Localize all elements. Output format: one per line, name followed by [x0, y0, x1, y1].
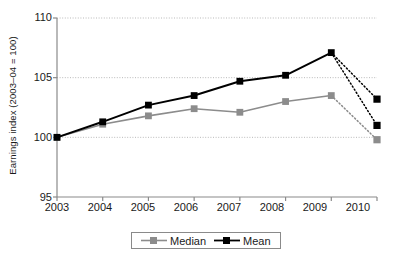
legend-label-mean: Mean [243, 235, 271, 247]
legend-label-median: Median [170, 235, 206, 247]
chart-legend: Median Mean [131, 232, 281, 249]
earnings-index-line-chart: Earnings index (2003–04 = 100) 95 100 10… [0, 0, 395, 255]
legend-item-median: Median [141, 235, 206, 247]
legend-symbol-median [141, 235, 167, 246]
legend-item-mean: Mean [214, 235, 271, 247]
data-series [54, 49, 381, 143]
legend-symbol-mean [214, 235, 240, 246]
axis-lines [53, 18, 377, 201]
plot-area [0, 0, 395, 255]
